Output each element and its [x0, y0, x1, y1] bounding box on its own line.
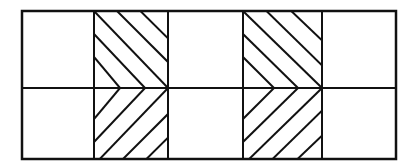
hatched-column-2 [94, 0, 218, 168]
grid-figure [0, 0, 416, 168]
grid-lines [22, 11, 396, 159]
hatch-top-2 [94, 0, 218, 88]
hatch-top-4 [243, 0, 372, 88]
outer-border [22, 11, 396, 159]
hatch-bottom-2 [94, 88, 218, 168]
hatched-column-4 [243, 0, 372, 168]
hatch-bottom-4 [243, 88, 372, 168]
